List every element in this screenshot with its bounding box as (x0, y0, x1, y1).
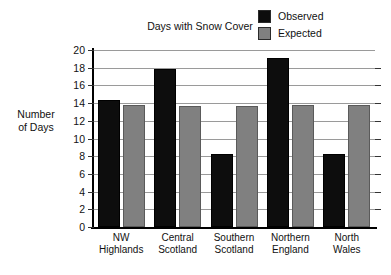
bar-observed-3 (267, 58, 289, 227)
x-axis-label-line: Southern (206, 232, 262, 244)
bar-expected-4 (348, 105, 370, 227)
y-axis-tick-right (375, 192, 381, 193)
y-axis-tick-label: 18 (57, 63, 85, 74)
x-axis-label-3: NorthernEngland (262, 232, 318, 256)
x-axis-label-line: England (262, 244, 318, 256)
y-axis-tick (88, 50, 94, 51)
y-axis-tick (88, 192, 94, 193)
y-axis-tick-right (375, 156, 381, 157)
bar-chart: Days with Snow Cover Observed Expected N… (0, 0, 391, 275)
y-axis-tick-right (375, 139, 381, 140)
bar-observed-1 (154, 69, 176, 227)
y-axis-tick (88, 209, 94, 210)
bar-observed-4 (323, 154, 345, 227)
y-axis-tick-label: 10 (57, 134, 85, 145)
x-axis-label-1: CentralScotland (149, 232, 205, 256)
x-axis-label-line: Central (149, 232, 205, 244)
x-axis-label-line: North (319, 232, 375, 244)
bar-expected-3 (292, 105, 314, 227)
y-axis-tick-label: 2 (57, 204, 85, 215)
bar-observed-2 (211, 154, 233, 227)
x-axis-line (91, 227, 377, 229)
bar-observed-0 (98, 100, 120, 227)
y-axis-tick (88, 139, 94, 140)
x-axis-label-line: NW (93, 232, 149, 244)
legend-item-observed: Observed (258, 8, 378, 24)
y-axis-tick-right (375, 174, 381, 175)
legend-swatch-expected (258, 27, 271, 40)
y-axis-tick-right (375, 209, 381, 210)
y-axis-tick-label: 12 (57, 116, 85, 127)
y-axis-tick-label: 6 (57, 169, 85, 180)
x-axis-label-0: NWHighlands (93, 232, 149, 256)
legend-label-expected: Expected (278, 27, 322, 40)
chart-title: Days with Snow Cover (120, 20, 280, 33)
y-axis-tick (88, 227, 94, 228)
y-axis-tick-label: 8 (57, 151, 85, 162)
bar-expected-2 (236, 106, 258, 227)
bar-expected-0 (123, 105, 145, 227)
y-axis-tick (88, 156, 94, 157)
y-axis-tick-label: 0 (57, 222, 85, 233)
x-axis-label-line: Scotland (206, 244, 262, 256)
y-axis-tick (88, 85, 94, 86)
gridline (93, 85, 375, 86)
legend-label-observed: Observed (278, 10, 324, 23)
y-axis-tick (88, 68, 94, 69)
legend-swatch-observed (258, 10, 271, 23)
y-axis-tick-label: 14 (57, 98, 85, 109)
gridline (93, 50, 375, 51)
y-axis-tick-label: 20 (57, 45, 85, 56)
chart-legend: Observed Expected (258, 8, 378, 42)
x-axis-label-line: Northern (262, 232, 318, 244)
y-axis-tick-right (375, 68, 381, 69)
y-axis-tick-label: 16 (57, 80, 85, 91)
y-axis-tick (88, 103, 94, 104)
plot-area (93, 50, 375, 227)
y-axis-tick-right (375, 121, 381, 122)
x-axis-label-line: Scotland (149, 244, 205, 256)
bar-expected-1 (179, 106, 201, 227)
x-axis-label-line: Wales (319, 244, 375, 256)
y-axis-tick (88, 121, 94, 122)
x-axis-label-line: Highlands (93, 244, 149, 256)
y-axis-tick (88, 174, 94, 175)
legend-item-expected: Expected (258, 25, 378, 41)
x-axis-label-4: NorthWales (319, 232, 375, 256)
y-axis-tick-label: 4 (57, 187, 85, 198)
y-axis-tick-right (375, 85, 381, 86)
y-axis-tick-right (375, 103, 381, 104)
x-axis-label-2: SouthernScotland (206, 232, 262, 256)
gridline (93, 68, 375, 69)
